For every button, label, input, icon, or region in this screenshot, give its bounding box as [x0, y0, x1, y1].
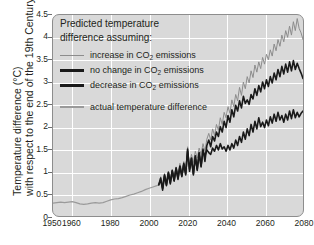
x-tick-label: 1980: [101, 219, 120, 228]
legend-item-label: increase in CO2 emissions: [90, 49, 196, 62]
x-tick-label: 2080: [295, 219, 314, 228]
legend-title-line1: Predicted temperature: [60, 18, 210, 31]
series-line: [53, 185, 159, 205]
x-tick-label: 2060: [256, 219, 275, 228]
legend-swatch-icon: [60, 84, 84, 86]
series-line: [159, 110, 303, 190]
legend-swatch-icon: [60, 55, 84, 56]
x-tick-label: 2040: [217, 219, 236, 228]
legend-swatch-icon: [60, 69, 84, 71]
x-tick-label: 2020: [178, 219, 197, 228]
x-tick-label: 2000: [139, 219, 158, 228]
legend-item-label: decrease in CO2 emissions: [90, 79, 199, 92]
legend: Predicted temperature difference assumin…: [60, 18, 210, 115]
climate-projection-chart: Temperature difference (°C) with respect…: [0, 0, 314, 245]
legend-item: increase in CO2 emissions: [60, 49, 210, 62]
legend-item: decrease in CO2 emissions: [60, 79, 210, 92]
legend-entries: increase in CO2 emissionsno change in CO…: [60, 49, 210, 113]
legend-swatch-icon: [60, 106, 84, 108]
legend-item-label: actual temperature difference: [90, 101, 207, 113]
legend-item: no change in CO2 emissions: [60, 64, 210, 77]
x-tick-label: 1960: [62, 219, 81, 228]
legend-title-line2: difference assuming:: [60, 32, 210, 45]
x-tick-label: 1950: [43, 219, 62, 228]
legend-item: actual temperature difference: [60, 101, 210, 113]
legend-item-label: no change in CO2 emissions: [90, 64, 204, 77]
